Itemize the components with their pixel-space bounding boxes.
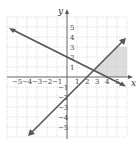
svg-text:−3: −3	[32, 78, 42, 86]
svg-text:−2: −2	[42, 78, 52, 86]
svg-text:3: 3	[70, 44, 74, 52]
svg-text:−5: −5	[12, 78, 22, 86]
svg-text:1: 1	[70, 64, 74, 72]
svg-text:−5: −5	[58, 124, 68, 132]
x-axis-label: x	[131, 78, 136, 88]
svg-text:4: 4	[70, 34, 75, 42]
coordinate-plane: x y −5 −4 −3 −2 −1 1 2 3 4 5 5 4 3 2 1 −…	[0, 0, 137, 142]
svg-text:−1: −1	[58, 84, 68, 92]
svg-text:5: 5	[70, 24, 74, 32]
svg-text:4: 4	[105, 78, 110, 86]
y-axis-arrow-icon	[65, 9, 69, 14]
y-axis-label: y	[57, 6, 64, 16]
svg-text:−4: −4	[58, 114, 69, 122]
svg-text:3: 3	[95, 78, 99, 86]
